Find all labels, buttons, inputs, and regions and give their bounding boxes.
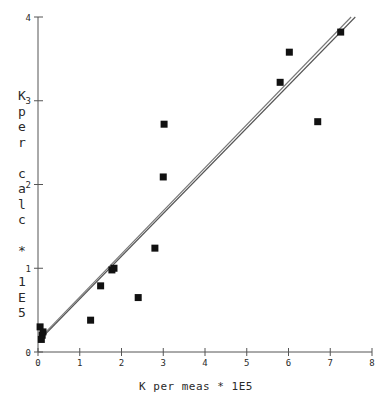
x-tick-label: 1 (77, 358, 82, 368)
data-point (314, 118, 321, 125)
data-point (40, 328, 47, 335)
y-axis-title-char (18, 259, 26, 275)
y-tick-label: 0 (26, 348, 31, 358)
y-axis-title-char: E (18, 290, 26, 306)
y-axis-title-char: r (18, 135, 26, 151)
data-point (286, 49, 293, 56)
y-axis-title-char (18, 228, 26, 244)
y-axis-title-char: a (18, 181, 26, 197)
x-tick-label: 0 (35, 358, 40, 368)
x-tick-label: 4 (202, 358, 207, 368)
data-point (135, 294, 142, 301)
fit-line (44, 17, 351, 334)
x-tick-label: 8 (369, 358, 374, 368)
y-axis-title: Kper calc * 1E5 (14, 88, 30, 321)
y-axis-title-char: 1 (18, 274, 26, 290)
x-tick-label: 7 (328, 358, 333, 368)
y-axis-title-char: p (18, 104, 26, 120)
data-point (87, 317, 94, 324)
x-tick-label: 5 (244, 358, 249, 368)
data-point (161, 121, 168, 128)
x-tick-label: 2 (119, 358, 124, 368)
data-point (151, 245, 158, 252)
data-point (160, 173, 167, 180)
x-axis-title: K per meas * 1E5 (0, 380, 392, 393)
x-tick-label: 3 (161, 358, 166, 368)
y-tick-label: 4 (26, 13, 31, 23)
data-point (337, 29, 344, 36)
chart-canvas: 01234567801234 (0, 0, 392, 403)
y-axis-title-char: e (18, 119, 26, 135)
y-axis-title-char: c (18, 166, 26, 182)
identity-line (44, 17, 355, 335)
data-point (277, 79, 284, 86)
y-axis-title-char: * (18, 243, 26, 259)
scatter-plot-figure: 01234567801234 Kper calc * 1E5 K per mea… (0, 0, 392, 403)
y-axis-title-char: c (18, 212, 26, 228)
y-axis-title-char: l (18, 197, 26, 213)
y-axis-title-char: 5 (18, 305, 26, 321)
x-tick-label: 6 (286, 358, 291, 368)
y-axis-title-char: K (18, 88, 26, 104)
data-point (97, 282, 104, 289)
y-axis-title-char (18, 150, 26, 166)
data-point (110, 265, 117, 272)
data-point (38, 336, 45, 343)
